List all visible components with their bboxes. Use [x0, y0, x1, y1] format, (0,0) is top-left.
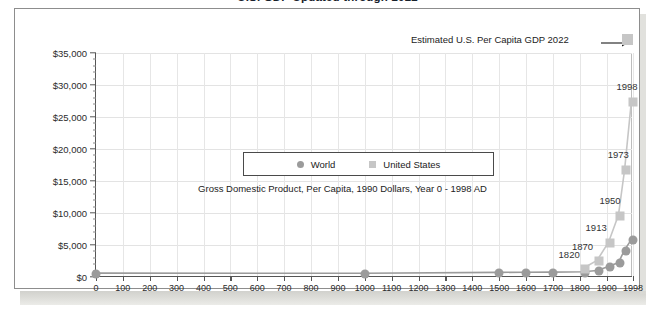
card-shadow — [20, 291, 646, 305]
gridline-vertical — [123, 53, 124, 276]
slide-title: U.S. GDP Updated through 2022 — [0, 0, 655, 3]
xtick-mark — [419, 276, 420, 281]
data-point-world — [629, 236, 638, 245]
xtick-mark — [445, 276, 446, 281]
ytick-mark — [90, 212, 96, 213]
gridline-vertical — [150, 53, 151, 276]
xtick-mark — [123, 276, 124, 281]
point-label-1973: 1973 — [608, 149, 629, 160]
ytick-minor-mark — [93, 59, 97, 60]
xtick-label: 0 — [93, 283, 98, 293]
point-label-1913: 1913 — [586, 222, 607, 233]
ytick-label: $25,000 — [53, 112, 87, 123]
ytick-mark — [90, 244, 96, 245]
gridline-vertical — [230, 53, 231, 276]
ytick-minor-mark — [93, 251, 97, 252]
ytick-label: $35,000 — [53, 48, 87, 59]
circle-marker-icon — [297, 161, 304, 168]
data-point-united-states — [581, 264, 590, 273]
xtick-mark — [580, 276, 581, 281]
ytick-mark — [90, 52, 96, 53]
xtick-label: 1600 — [516, 283, 536, 293]
chart-legend: World United States — [243, 152, 494, 176]
legend-label-united-states: United States — [383, 159, 440, 170]
data-point-world — [495, 269, 504, 278]
ytick-minor-mark — [93, 78, 97, 79]
gridline-vertical — [499, 53, 500, 276]
xtick-mark — [472, 276, 473, 281]
legend-item-world: World — [297, 159, 336, 170]
xtick-mark — [311, 276, 312, 281]
ytick-minor-mark — [93, 225, 97, 226]
ytick-minor-mark — [93, 161, 97, 162]
gridline-vertical — [177, 53, 178, 276]
ytick-minor-mark — [93, 65, 97, 66]
ytick-mark — [90, 180, 96, 181]
data-point-united-states — [629, 98, 638, 107]
square-marker-icon — [369, 161, 376, 168]
ytick-minor-mark — [93, 136, 97, 137]
data-point-world — [522, 269, 531, 278]
gridline-vertical — [204, 53, 205, 276]
ytick-minor-mark — [93, 257, 97, 258]
ytick-minor-mark — [93, 232, 97, 233]
gridline-vertical — [526, 53, 527, 276]
xtick-mark — [230, 276, 231, 281]
data-point-world — [616, 259, 625, 268]
point-label-1870: 1870 — [572, 241, 593, 252]
xtick-label: 1800 — [570, 283, 590, 293]
ytick-minor-mark — [93, 72, 97, 73]
ytick-minor-mark — [93, 97, 97, 98]
ytick-minor-mark — [93, 264, 97, 265]
xtick-label: 400 — [196, 283, 211, 293]
ytick-minor-mark — [93, 129, 97, 130]
ytick-minor-mark — [93, 219, 97, 220]
ytick-minor-mark — [93, 91, 97, 92]
ytick-minor-mark — [93, 155, 97, 156]
xtick-label: 300 — [169, 283, 184, 293]
ytick-label: $30,000 — [53, 80, 87, 91]
data-point-world — [622, 246, 631, 255]
xtick-mark — [257, 276, 258, 281]
xtick-mark — [392, 276, 393, 281]
ytick-minor-mark — [93, 142, 97, 143]
xtick-label: 1300 — [435, 283, 455, 293]
xtick-mark — [607, 276, 608, 281]
xtick-label: 200 — [142, 283, 157, 293]
data-point-world — [606, 263, 615, 272]
ytick-minor-mark — [93, 200, 97, 201]
legend-label-world: World — [311, 159, 336, 170]
xtick-label: 1000 — [355, 283, 375, 293]
chart-card: Estimated U.S. Per Capita GDP 2022 $0$5,… — [14, 8, 640, 289]
data-point-world — [360, 270, 369, 279]
ytick-label: $5,000 — [58, 240, 87, 251]
data-point-united-states — [594, 257, 603, 266]
xtick-label: 800 — [303, 283, 318, 293]
xtick-label: 1700 — [543, 283, 563, 293]
ytick-label: $10,000 — [53, 208, 87, 219]
xtick-mark — [177, 276, 178, 281]
chart-subtitle: Gross Domestic Product, Per Capita, 1990… — [15, 183, 655, 194]
xtick-mark — [338, 276, 339, 281]
ytick-minor-mark — [93, 104, 97, 105]
ytick-minor-mark — [93, 174, 97, 175]
xtick-label: 900 — [330, 283, 345, 293]
ytick-label: $0 — [76, 272, 87, 283]
data-point-united-states — [606, 239, 615, 248]
xtick-label: 1100 — [382, 283, 401, 293]
ytick-label: $20,000 — [53, 144, 87, 155]
point-label-1998: 1998 — [616, 81, 637, 92]
card-shadow-right — [640, 14, 646, 294]
data-point-world — [548, 269, 557, 278]
data-point-united-states — [622, 166, 631, 175]
xtick-mark — [633, 276, 634, 281]
annotation-label: Estimated U.S. Per Capita GDP 2022 — [411, 34, 569, 45]
xtick-label: 500 — [223, 283, 238, 293]
ytick-minor-mark — [93, 238, 97, 239]
ytick-minor-mark — [93, 123, 97, 124]
xtick-label: 1998 — [623, 283, 643, 293]
xtick-mark — [150, 276, 151, 281]
gridline-vertical — [553, 53, 554, 276]
us-2022-square-marker — [622, 34, 633, 45]
xtick-label: 1400 — [462, 283, 482, 293]
